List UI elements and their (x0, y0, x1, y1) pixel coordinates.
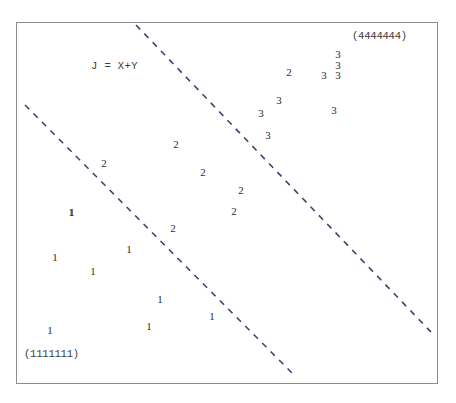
data-point-class-2: 2 (173, 139, 179, 150)
plot-frame (16, 22, 438, 384)
data-point-class-2: 2 (101, 158, 107, 169)
data-point-class-1: 1 (68, 207, 74, 218)
data-point-class-3: 3 (335, 70, 341, 81)
data-point-class-3: 3 (331, 105, 337, 116)
data-point-class-2: 2 (200, 167, 206, 178)
data-point-class-2: 2 (238, 185, 244, 196)
data-point-class-3: 3 (265, 130, 271, 141)
data-point-class-1: 1 (157, 294, 163, 305)
data-point-class-1: 1 (47, 325, 53, 336)
data-point-class-3: 3 (276, 95, 282, 106)
region-label-class1: (1111111) (24, 348, 79, 360)
data-point-class-1: 1 (126, 244, 132, 255)
data-point-class-2: 2 (170, 223, 176, 234)
data-point-class-1: 1 (146, 321, 152, 332)
figure-container: (4444444) (1111111) J = X+Y 111111111222… (0, 0, 456, 403)
data-point-class-1: 1 (52, 252, 58, 263)
data-point-class-1: 1 (209, 311, 215, 322)
data-point-class-2: 2 (286, 67, 292, 78)
data-point-class-2: 2 (231, 206, 237, 217)
data-point-class-3: 3 (258, 108, 264, 119)
data-point-class-1: 1 (90, 266, 96, 277)
data-point-class-3: 3 (321, 70, 327, 81)
boundary-equation-label: J = X+Y (91, 60, 138, 72)
region-label-class4: (4444444) (352, 30, 407, 42)
